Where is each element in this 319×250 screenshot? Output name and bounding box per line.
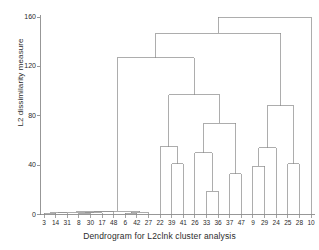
y-tick-label: 0 <box>14 211 36 218</box>
dendrogram-plot <box>0 0 319 250</box>
y-tick-label: 40 <box>14 161 36 168</box>
dendrogram-figure: L2 dissimilarity measure Dendrogram for … <box>0 0 319 250</box>
y-axis-label: L2 dissimilarity measure <box>16 13 25 153</box>
x-axis-title: Dendrogram for L2clnk cluster analysis <box>0 231 319 241</box>
y-tick-label: 80 <box>14 112 36 119</box>
leaf-label-10: 10 <box>303 219 319 226</box>
y-tick-label: 120 <box>14 62 36 69</box>
y-tick-label: 160 <box>14 13 36 20</box>
